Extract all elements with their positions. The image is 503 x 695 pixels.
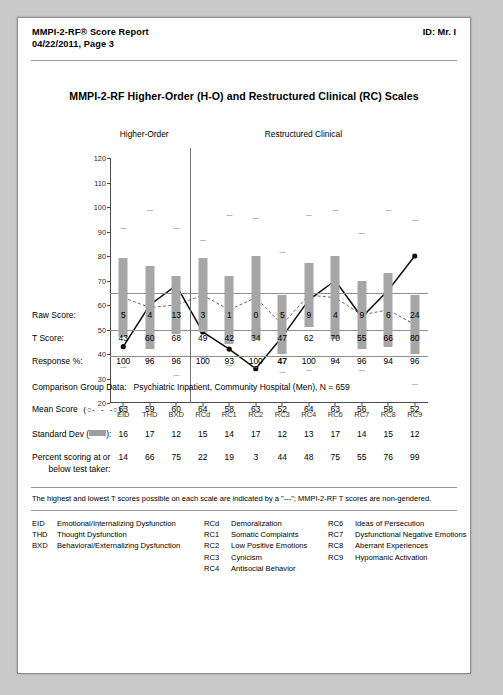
- table-cell: 63: [331, 404, 340, 414]
- max-score-marker: ---: [147, 206, 153, 213]
- min-score-marker: ---: [279, 368, 285, 375]
- legend-item: RC3Cynicism: [204, 552, 307, 563]
- table-cell: 24: [410, 310, 419, 320]
- sd-range-bar: [119, 258, 128, 336]
- table-cell: 47: [278, 356, 287, 366]
- table-cell: 94: [331, 356, 340, 366]
- legend-item: RC6Ideas of Persecution: [328, 518, 466, 529]
- table-cell: 63: [251, 404, 260, 414]
- legend-key: RCd: [204, 518, 231, 529]
- legend-text: Hypomanic Activation: [355, 553, 428, 562]
- y-axis-tick-mark: [107, 281, 111, 282]
- max-score-marker: ---: [253, 213, 259, 220]
- max-score-marker: ---: [120, 223, 126, 230]
- sd-range-bar: [331, 256, 340, 339]
- table-cell: 3: [253, 452, 258, 462]
- sd-range-bar: [251, 256, 260, 339]
- reference-line-50: [110, 330, 428, 331]
- table-cell: 60: [172, 404, 181, 414]
- y-axis-tick-label: 100: [94, 203, 106, 212]
- table-cell: 6: [386, 310, 391, 320]
- table-cell: 47: [278, 333, 287, 343]
- table-cell: 44: [278, 452, 287, 462]
- reference-line-65: [110, 293, 428, 294]
- footnote-divider: [31, 487, 457, 488]
- y-axis-tick-label: 110: [94, 178, 106, 187]
- table-cell: 55: [357, 333, 366, 343]
- sd-swatch: [89, 430, 106, 436]
- legend-divider: [31, 510, 457, 511]
- table-cell: 3: [200, 310, 205, 320]
- report-title: MMPI-2-RF® Score Report 04/22/2011, Page…: [32, 27, 149, 50]
- table-cell: 17: [331, 429, 340, 439]
- table-cell: 43: [119, 333, 128, 343]
- table-cell: 34: [251, 333, 260, 343]
- report-id: ID: Mr. I: [423, 27, 456, 37]
- legend-item: BXDBehavioral/Externalizing Dysfunction: [32, 540, 180, 551]
- footnote-text: The highest and lowest T scores possible…: [32, 494, 431, 503]
- table-cell: 14: [119, 452, 128, 462]
- table-cell: 19: [225, 452, 234, 462]
- table-cell: 96: [172, 356, 181, 366]
- comparison-group-data: Comparison Group Data: Psychiatric Inpat…: [32, 382, 350, 392]
- table-cell: 52: [278, 404, 287, 414]
- max-score-marker: ---: [385, 206, 391, 213]
- table-cell: 100: [302, 356, 316, 366]
- table-cell: 17: [145, 429, 154, 439]
- table-cell: 9: [306, 310, 311, 320]
- legend-key: RC7: [328, 529, 355, 540]
- legend-text: Emotional/Internalizing Dysfunction: [57, 519, 176, 528]
- max-score-marker: ---: [279, 248, 285, 255]
- table-cell: 0: [253, 310, 258, 320]
- y-axis-tick-mark: [107, 256, 111, 257]
- report-title-line2: 04/22/2011, Page 3: [32, 39, 114, 49]
- table-cell: 4: [147, 310, 152, 320]
- standard-dev-label: Standard Dev ():: [32, 429, 111, 439]
- legend-text: Antisocial Behavior: [231, 564, 296, 573]
- legend-text: Low Positive Emotions: [231, 541, 307, 550]
- legend-text: Demoralization: [231, 519, 282, 528]
- max-score-marker: ---: [332, 206, 338, 213]
- legend-item: RC8Aberrant Experiences: [328, 540, 466, 551]
- table-cell: 15: [198, 429, 207, 439]
- table-cell: 93: [225, 356, 234, 366]
- table-cell: 56: [357, 404, 366, 414]
- legend-item: RC2Low Positive Emotions: [204, 540, 307, 551]
- table-cell: 96: [357, 356, 366, 366]
- legend-text: Cynicism: [231, 553, 262, 562]
- legend-item: THDThought Dysfunction: [32, 529, 180, 540]
- y-axis-tick-mark: [107, 305, 111, 306]
- table-cell: 75: [172, 452, 181, 462]
- legend-item: EIDEmotional/Internalizing Dysfunction: [32, 518, 180, 529]
- table-cell: 12: [172, 429, 181, 439]
- legend-text: Ideas of Persecution: [355, 519, 424, 528]
- response-pct-label: Response %:: [32, 356, 83, 366]
- legend-column-1: EIDEmotional/Internalizing DysfunctionTH…: [32, 518, 180, 552]
- table-cell: 59: [145, 404, 154, 414]
- y-axis-tick-mark: [107, 354, 111, 355]
- row-mean-score: Mean Score (○- - -○):6359606458635264635…: [18, 404, 470, 416]
- table-cell: 42: [225, 333, 234, 343]
- legend-item: RC7Dysfunctional Negative Emotions: [328, 529, 466, 540]
- table-cell: 66: [384, 333, 393, 343]
- row-response-pct: Response %:1009696100931004710094969496: [18, 356, 470, 368]
- legend-key: EID: [32, 518, 57, 529]
- max-score-marker: ---: [200, 235, 206, 242]
- chart-title: MMPI-2-RF Higher-Order (H-O) and Restruc…: [18, 90, 470, 102]
- table-cell: 99: [410, 452, 419, 462]
- table-cell: 12: [410, 429, 419, 439]
- table-cell: 13: [304, 429, 313, 439]
- legend-text: Somatic Complaints: [231, 530, 299, 539]
- report-title-line1: MMPI-2-RF® Score Report: [32, 27, 149, 37]
- y-axis-tick-mark: [107, 158, 111, 159]
- y-axis-tick-mark: [107, 232, 111, 233]
- table-cell: 94: [384, 356, 393, 366]
- table-cell: 64: [304, 404, 313, 414]
- y-axis-tick-label: 70: [98, 276, 106, 285]
- table-cell: 52: [410, 404, 419, 414]
- table-cell: 4: [333, 310, 338, 320]
- row-standard-dev: Standard Dev ():161712151417121317141512: [18, 429, 470, 441]
- table-cell: 80: [410, 333, 419, 343]
- max-score-marker: ---: [306, 211, 312, 218]
- table-cell: 63: [119, 404, 128, 414]
